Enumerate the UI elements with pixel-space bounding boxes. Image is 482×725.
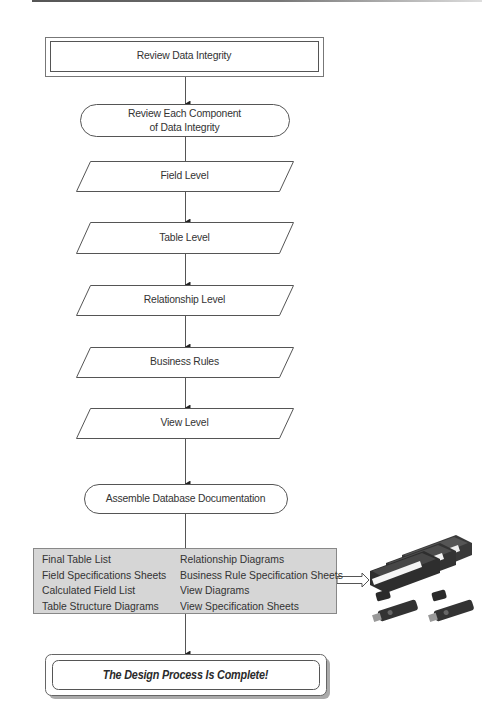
table-level-label: Table Level bbox=[93, 231, 276, 243]
doc-item: Final Table List bbox=[42, 552, 166, 568]
view-level-label: View Level bbox=[93, 416, 276, 428]
doc-item: Relationship Diagrams bbox=[180, 552, 343, 568]
start-label: Review Data Integrity bbox=[63, 49, 304, 61]
field-level-label: Field Level bbox=[93, 169, 276, 181]
review-components-line1: Review Each Component bbox=[90, 106, 278, 120]
documentation-right-column: Relationship Diagrams Business Rule Spec… bbox=[180, 552, 361, 613]
documentation-left-column: Final Table List Field Specifications Sh… bbox=[42, 552, 180, 613]
review-components-label: Review Each Component of Data Integrity bbox=[90, 106, 278, 134]
documentation-box: Final Table List Field Specifications Sh… bbox=[33, 548, 337, 614]
review-components-line2: of Data Integrity bbox=[90, 120, 278, 134]
binders-and-usb-drives-icon bbox=[368, 533, 480, 623]
doc-item: Business Rule Specification Sheets bbox=[180, 568, 343, 584]
relationship-level-label: Relationship Level bbox=[93, 293, 276, 305]
doc-item: Field Specifications Sheets bbox=[42, 568, 166, 584]
assemble-label: Assemble Database Documentation bbox=[94, 492, 277, 504]
doc-item: View Diagrams bbox=[180, 583, 343, 599]
doc-item: View Specification Sheets bbox=[180, 599, 343, 615]
doc-item: Table Structure Diagrams bbox=[42, 599, 166, 615]
end-label: The Design Process Is Complete! bbox=[65, 668, 305, 682]
business-rules-label: Business Rules bbox=[93, 355, 276, 367]
doc-item: Calculated Field List bbox=[42, 583, 166, 599]
